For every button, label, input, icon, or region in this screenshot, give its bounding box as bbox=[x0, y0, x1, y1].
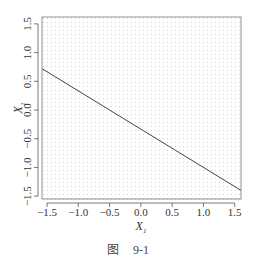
x-tick-label: −0.5 bbox=[100, 206, 120, 218]
x-tick-label: 0.0 bbox=[134, 206, 148, 218]
figure-caption: 图9-1 bbox=[0, 240, 256, 258]
x-tick-label: −1.5 bbox=[37, 206, 57, 218]
x-tick-label: 1.5 bbox=[228, 206, 242, 218]
y-tick-label: 1.5 bbox=[21, 17, 33, 31]
x-tick-label: 1.0 bbox=[197, 206, 211, 218]
caption-number: 9-1 bbox=[133, 243, 149, 257]
y-tick-label: −1.0 bbox=[21, 157, 33, 177]
y-tick-label: −0.5 bbox=[21, 128, 33, 148]
x-tick-label: −1.0 bbox=[68, 206, 88, 218]
y-tick-label: −1.5 bbox=[21, 186, 33, 206]
caption-prefix: 图 bbox=[107, 243, 119, 257]
hyperplane-chart: −1.5−1.0−0.50.00.51.01.5 −1.5−1.0−0.50.0… bbox=[0, 0, 256, 235]
x-tick-label: 0.5 bbox=[165, 206, 179, 218]
x-axis: −1.5−1.0−0.50.00.51.01.5 bbox=[37, 203, 242, 218]
plot-area bbox=[42, 17, 241, 199]
x-axis-label: X1 bbox=[135, 219, 147, 235]
y-tick-label: 0.5 bbox=[21, 74, 33, 88]
y-tick-label: 1.0 bbox=[21, 45, 33, 59]
y-axis-label: X2 bbox=[11, 102, 27, 114]
